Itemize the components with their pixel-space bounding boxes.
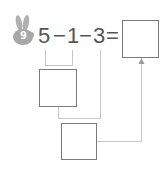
- answer-box[interactable]: [122, 20, 159, 58]
- step1-box[interactable]: [39, 69, 77, 107]
- step2-box[interactable]: [61, 123, 97, 160]
